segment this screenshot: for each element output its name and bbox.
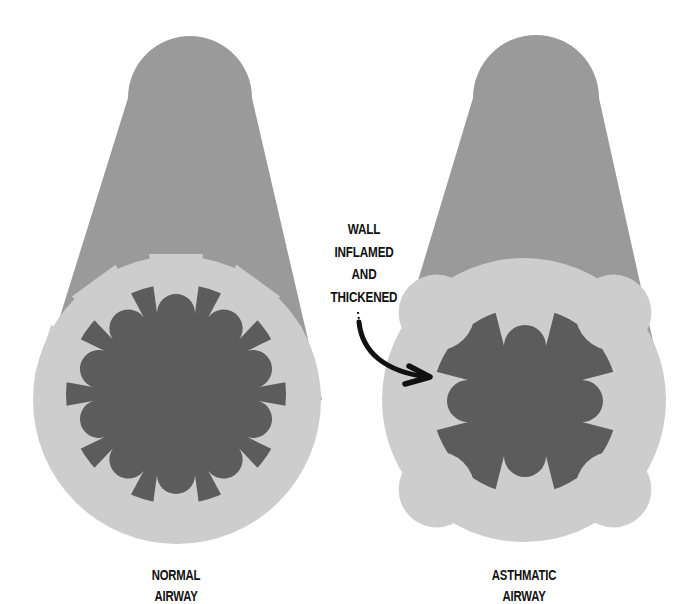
asthmatic-airway-lumen (395, 271, 655, 531)
airway-comparison-diagram: WALL INFLAMED AND THICKENED NORMAL AIRWA… (0, 0, 698, 604)
label-line: ASTHMATIC (477, 565, 571, 586)
normal-airway-illustration (33, 36, 322, 544)
normal-airway-label: NORMAL AIRWAY (116, 565, 236, 604)
asthmatic-airway-label: ASTHMATIC AIRWAY (464, 565, 584, 604)
label-line: AIRWAY (477, 586, 571, 604)
label-line: AIRWAY (129, 586, 223, 604)
annotation-line: THICKENED (321, 286, 407, 309)
annotation-line: AND (321, 263, 407, 286)
asthmatic-airway-illustration (382, 35, 666, 542)
annotation-line: WALL (321, 218, 407, 241)
label-line: NORMAL (129, 565, 223, 586)
wall-inflamed-annotation: WALL INFLAMED AND THICKENED (309, 218, 419, 308)
annotation-line: INFLAMED (321, 241, 407, 264)
normal-airway-lumen (35, 254, 318, 534)
